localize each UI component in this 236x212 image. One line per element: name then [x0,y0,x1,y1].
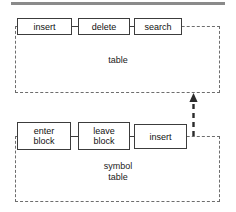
uses-arrow-head [189,93,197,102]
diagram-canvas: table insert delete search symbol table … [0,0,236,212]
uses-arrow [0,0,236,212]
